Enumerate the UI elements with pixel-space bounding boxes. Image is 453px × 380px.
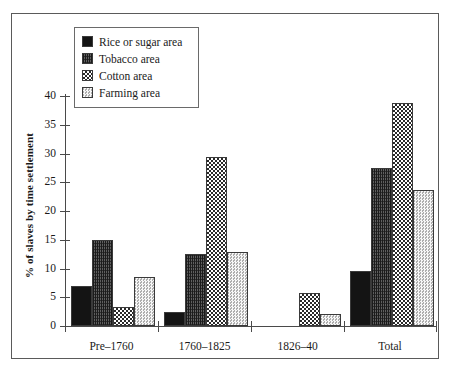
legend-item-cotton-area: Cotton area <box>82 67 191 84</box>
x-label-1826-40: 1826–40 <box>251 340 344 352</box>
y-tick-label-0: 0 <box>32 320 56 332</box>
legend-swatch-rice-or-sugar-area <box>82 36 93 47</box>
bars-layer <box>66 96 436 326</box>
y-tick-label-15: 15 <box>32 234 56 246</box>
legend-item-farming-area: Farming area <box>82 84 191 101</box>
bar-1826-40-farming-area <box>320 314 341 326</box>
legend-label-cotton-area: Cotton area <box>99 70 152 82</box>
bar-1760-1825-farming-area <box>227 252 248 326</box>
chart-figure: % of slaves by time settlement 40 35 30 … <box>0 0 453 380</box>
legend-swatch-farming-area <box>82 87 93 98</box>
plot-area <box>66 96 436 326</box>
bar-total-farming-area <box>413 190 434 326</box>
y-tick-label-5: 5 <box>32 291 56 303</box>
bar-pre-1760-rice-or-sugar-area <box>71 286 92 326</box>
x-label-total: Total <box>344 340 436 352</box>
legend-label-tobacco-area: Tobacco area <box>99 53 160 65</box>
x-label-pre-1760: Pre–1760 <box>65 340 158 352</box>
legend-label-farming-area: Farming area <box>99 87 160 99</box>
bar-1826-40-cotton-area <box>299 293 320 326</box>
y-tick-label-10: 10 <box>32 263 56 275</box>
y-tick-label-40: 40 <box>32 90 56 102</box>
x-label-1760-1825: 1760–1825 <box>158 340 251 352</box>
bar-1760-1825-tobacco-area <box>185 254 206 326</box>
bar-pre-1760-tobacco-area <box>92 240 113 326</box>
legend-swatch-tobacco-area <box>82 53 93 64</box>
y-tick-label-25: 25 <box>32 176 56 188</box>
bar-pre-1760-cotton-area <box>113 307 134 326</box>
legend-item-tobacco-area: Tobacco area <box>82 50 191 67</box>
y-tick-label-35: 35 <box>32 119 56 131</box>
chart-legend: Rice or sugar area Tobacco area Cotton a… <box>74 27 199 108</box>
y-tick-label-30: 30 <box>32 148 56 160</box>
legend-swatch-cotton-area <box>82 70 93 81</box>
bar-pre-1760-farming-area <box>134 277 155 326</box>
bar-total-tobacco-area <box>371 168 392 326</box>
legend-label-rice-or-sugar-area: Rice or sugar area <box>99 36 182 48</box>
bar-total-cotton-area <box>392 103 413 326</box>
legend-item-rice-or-sugar-area: Rice or sugar area <box>82 33 191 50</box>
bar-1760-1825-cotton-area <box>206 157 227 326</box>
bar-1760-1825-rice-or-sugar-area <box>164 312 185 326</box>
x-tick-4 <box>436 321 437 332</box>
bar-total-rice-or-sugar-area <box>350 271 371 326</box>
y-tick-label-20: 20 <box>32 205 56 217</box>
